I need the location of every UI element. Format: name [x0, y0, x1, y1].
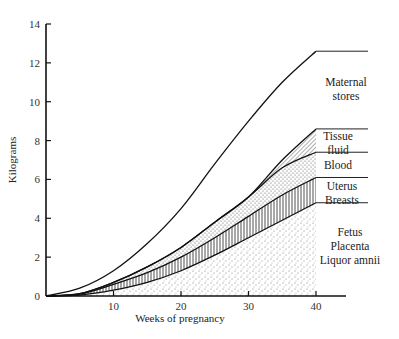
label-tissue-fluid: Tissue — [323, 130, 353, 142]
x-axis-title: Weeks of pregnancy — [135, 312, 225, 324]
y-tick-label: 4 — [35, 212, 41, 224]
label-uterus-breasts: Breasts — [325, 194, 359, 206]
label-uterus-breasts: Uterus — [327, 180, 358, 192]
x-tick-label: 10 — [108, 300, 120, 312]
label-fetus-placenta: Fetus — [338, 226, 363, 238]
label-maternal-stores: Maternal — [325, 76, 367, 88]
y-tick-label: 0 — [35, 290, 41, 302]
label-fetus-placenta: Liquor amnii — [320, 254, 380, 267]
y-tick-label: 10 — [29, 96, 41, 108]
y-tick-label: 2 — [35, 251, 41, 263]
label-tissue-fluid: fluid — [327, 144, 349, 156]
weight-gain-chart: 02468101214 10203040 Weeks of pregnancy … — [0, 0, 399, 339]
x-tick-label: 20 — [176, 300, 188, 312]
y-ticks: 02468101214 — [29, 18, 51, 302]
x-tick-label: 40 — [311, 300, 323, 312]
segment-labels: MaternalstoresTissuefluidBloodUterusBrea… — [316, 51, 380, 267]
label-fetus-placenta: Placenta — [331, 240, 370, 252]
label-blood: Blood — [324, 159, 352, 171]
x-tick-label: 30 — [243, 300, 255, 312]
label-maternal-stores: stores — [333, 90, 360, 102]
y-tick-label: 8 — [35, 135, 41, 147]
y-tick-label: 12 — [29, 57, 40, 69]
y-axis-title: Kilograms — [6, 137, 18, 183]
y-tick-label: 14 — [29, 18, 41, 30]
y-tick-label: 6 — [35, 173, 41, 185]
